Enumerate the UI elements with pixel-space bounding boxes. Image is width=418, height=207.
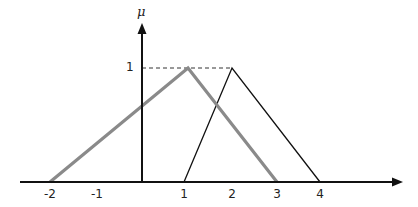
black-triangle-membership xyxy=(184,68,320,182)
x-tick-label: 1 xyxy=(180,187,188,201)
x-tick-label: 4 xyxy=(316,187,324,201)
y-tick-label-1: 1 xyxy=(126,60,134,74)
x-tick-label: -2 xyxy=(44,187,56,201)
x-tick-label: 2 xyxy=(228,187,236,201)
y-axis-label: μ xyxy=(137,4,145,19)
gray-triangle-membership xyxy=(50,68,277,182)
diagram-canvas xyxy=(0,0,418,207)
y-axis-arrow-icon xyxy=(138,23,147,34)
fuzzy-membership-diagram: μ 1 -2 -1 1 2 3 4 xyxy=(0,0,418,207)
x-tick-label: 3 xyxy=(273,187,281,201)
x-axis-arrow-icon xyxy=(392,178,403,187)
x-tick-label: -1 xyxy=(91,187,103,201)
